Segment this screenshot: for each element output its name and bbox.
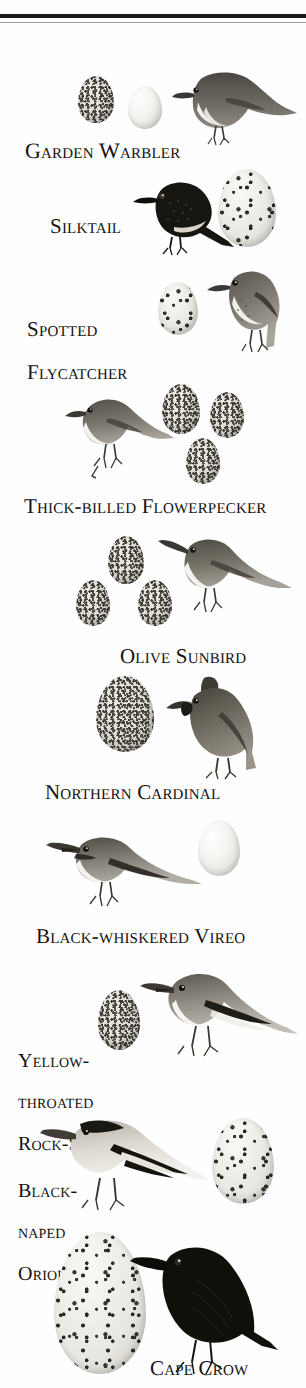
egg-olive-sunbird-1 bbox=[108, 536, 144, 584]
label-black-whiskered-vireo: Black-whiskered Vireo bbox=[36, 926, 300, 948]
egg-flowerpecker-2 bbox=[210, 392, 244, 438]
bird-garden-warbler bbox=[168, 68, 300, 148]
label-line: Yellow- bbox=[18, 1051, 158, 1072]
plate-thick-billed-flowerpecker bbox=[0, 378, 306, 498]
plate-olive-sunbird bbox=[0, 528, 306, 638]
bird-northern-cardinal bbox=[160, 672, 300, 780]
header-rule-thin bbox=[0, 22, 306, 23]
bird-spotted-flycatcher bbox=[204, 262, 304, 362]
label-garden-warbler: Garden Warbler bbox=[25, 140, 285, 163]
egg-flowerpecker-3 bbox=[186, 438, 220, 484]
bird-olive-sunbird bbox=[156, 528, 296, 620]
egg-garden-warbler-2 bbox=[128, 86, 162, 129]
egg-northern-cardinal-1 bbox=[96, 676, 154, 752]
label-northern-cardinal: Northern Cardinal bbox=[45, 782, 285, 804]
label-thick-billed-flowerpecker: Thick-billed Flowerpecker bbox=[24, 496, 306, 518]
bird-yellow-throated-rock-sparrow bbox=[140, 966, 300, 1078]
egg-black-naped-oriole-1 bbox=[212, 1118, 274, 1204]
label-line: Black- bbox=[18, 1181, 148, 1202]
label-cape-crow: Cape Crow bbox=[150, 1358, 306, 1380]
plate-northern-cardinal bbox=[0, 672, 306, 782]
bird-cape-crow bbox=[130, 1236, 280, 1376]
plate-black-whiskered-vireo bbox=[0, 812, 306, 922]
bird-black-whiskered-vireo bbox=[46, 830, 206, 922]
label-line: Spotted bbox=[27, 319, 197, 341]
label-silktail: Silktail bbox=[50, 216, 230, 238]
egg-garden-warbler-1 bbox=[78, 76, 114, 123]
egg-olive-sunbird-2 bbox=[76, 580, 110, 626]
field-guide-page: Garden Warbler Silktail bbox=[0, 0, 306, 1388]
bird-thick-billed-flowerpecker bbox=[62, 392, 176, 486]
header-rule-thick bbox=[0, 14, 306, 18]
label-olive-sunbird: Olive Sunbird bbox=[120, 646, 306, 668]
